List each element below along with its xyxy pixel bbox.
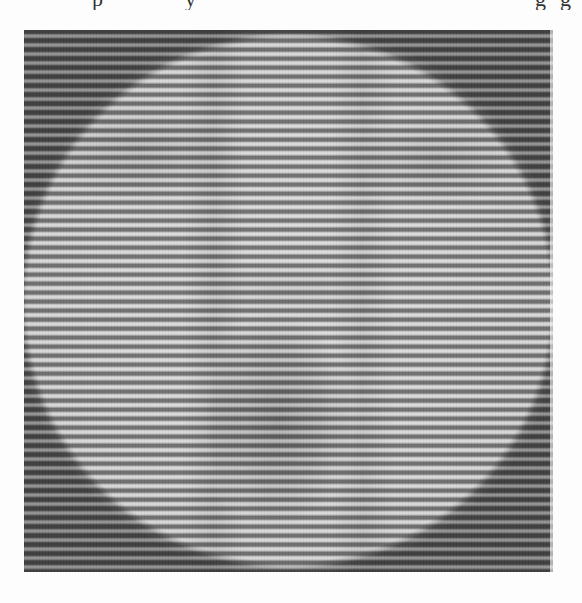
striped-figure-image — [24, 30, 553, 572]
figure-scan-noise — [24, 30, 553, 572]
caption-glyph-2: y — [185, 0, 197, 10]
figure-right-edge — [550, 30, 553, 572]
caption-glyph-4: g — [560, 0, 572, 10]
caption-glyph-1: p — [92, 0, 104, 10]
caption-glyph-3: g — [535, 0, 547, 10]
cropped-caption-text: p y g g — [0, 0, 582, 10]
